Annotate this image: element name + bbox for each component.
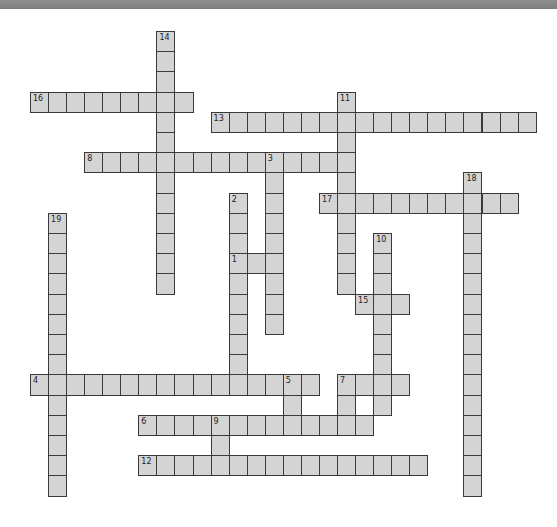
crossword-cell[interactable] (229, 354, 248, 375)
crossword-cell[interactable] (337, 415, 356, 436)
crossword-cell[interactable]: 9 (211, 415, 230, 436)
crossword-cell[interactable] (391, 294, 410, 315)
crossword-cell[interactable]: 2 (229, 193, 248, 214)
crossword-cell[interactable] (373, 395, 392, 416)
crossword-cell[interactable] (193, 152, 212, 173)
crossword-cell[interactable] (463, 233, 482, 254)
crossword-cell[interactable] (174, 455, 193, 476)
crossword-cell[interactable] (156, 213, 175, 234)
crossword-cell[interactable] (48, 455, 67, 476)
crossword-cell[interactable] (463, 475, 482, 496)
crossword-cell[interactable] (229, 152, 248, 173)
crossword-cell[interactable] (463, 395, 482, 416)
crossword-cell[interactable]: 12 (138, 455, 157, 476)
crossword-cell[interactable] (138, 92, 157, 113)
crossword-cell[interactable] (337, 112, 356, 133)
crossword-cell[interactable] (355, 415, 374, 436)
crossword-cell[interactable] (102, 92, 121, 113)
crossword-cell[interactable] (319, 112, 338, 133)
crossword-cell[interactable] (427, 112, 446, 133)
crossword-cell[interactable] (337, 172, 356, 193)
crossword-cell[interactable] (373, 273, 392, 294)
crossword-cell[interactable] (301, 415, 320, 436)
crossword-cell[interactable]: 19 (48, 213, 67, 234)
crossword-cell[interactable] (193, 374, 212, 395)
crossword-cell[interactable] (301, 152, 320, 173)
crossword-cell[interactable] (156, 193, 175, 214)
crossword-cell[interactable] (445, 112, 464, 133)
crossword-cell[interactable] (283, 395, 302, 416)
crossword-cell[interactable] (337, 273, 356, 294)
crossword-cell[interactable] (174, 92, 193, 113)
crossword-cell[interactable] (156, 233, 175, 254)
crossword-cell[interactable] (463, 435, 482, 456)
crossword-cell[interactable] (283, 415, 302, 436)
crossword-cell[interactable] (138, 374, 157, 395)
crossword-cell[interactable] (48, 415, 67, 436)
crossword-cell[interactable] (518, 112, 537, 133)
crossword-cell[interactable] (463, 415, 482, 436)
crossword-cell[interactable] (48, 435, 67, 456)
crossword-cell[interactable]: 17 (319, 193, 338, 214)
crossword-cell[interactable] (156, 273, 175, 294)
crossword-cell[interactable]: 4 (30, 374, 49, 395)
crossword-cell[interactable] (48, 475, 67, 496)
crossword-cell[interactable] (265, 193, 284, 214)
crossword-cell[interactable] (283, 455, 302, 476)
crossword-cell[interactable] (265, 233, 284, 254)
crossword-cell[interactable] (193, 455, 212, 476)
crossword-cell[interactable] (301, 455, 320, 476)
crossword-cell[interactable] (373, 354, 392, 375)
crossword-cell[interactable] (337, 193, 356, 214)
crossword-cell[interactable]: 16 (30, 92, 49, 113)
crossword-cell[interactable] (373, 193, 392, 214)
crossword-cell[interactable] (174, 152, 193, 173)
crossword-cell[interactable] (138, 152, 157, 173)
crossword-cell[interactable] (229, 374, 248, 395)
crossword-cell[interactable] (409, 112, 428, 133)
crossword-cell[interactable]: 11 (337, 92, 356, 113)
crossword-cell[interactable]: 18 (463, 172, 482, 193)
crossword-cell[interactable] (373, 455, 392, 476)
crossword-cell[interactable] (409, 455, 428, 476)
crossword-cell[interactable] (102, 374, 121, 395)
crossword-cell[interactable]: 15 (355, 294, 374, 315)
crossword-cell[interactable] (283, 112, 302, 133)
crossword-cell[interactable] (301, 374, 320, 395)
crossword-cell[interactable] (156, 152, 175, 173)
crossword-cell[interactable] (229, 334, 248, 355)
crossword-cell[interactable] (229, 112, 248, 133)
crossword-cell[interactable] (211, 374, 230, 395)
crossword-cell[interactable] (265, 213, 284, 234)
crossword-cell[interactable] (337, 253, 356, 274)
crossword-cell[interactable] (337, 213, 356, 234)
crossword-cell[interactable] (319, 415, 338, 436)
crossword-cell[interactable] (265, 172, 284, 193)
crossword-cell[interactable] (48, 354, 67, 375)
crossword-cell[interactable] (463, 455, 482, 476)
crossword-cell[interactable] (409, 193, 428, 214)
crossword-cell[interactable] (66, 92, 85, 113)
crossword-cell[interactable] (265, 314, 284, 335)
crossword-cell[interactable] (229, 455, 248, 476)
crossword-cell[interactable] (229, 273, 248, 294)
crossword-cell[interactable] (265, 455, 284, 476)
crossword-cell[interactable] (247, 455, 266, 476)
crossword-cell[interactable] (247, 374, 266, 395)
crossword-cell[interactable] (229, 415, 248, 436)
crossword-cell[interactable] (463, 354, 482, 375)
crossword-cell[interactable] (463, 213, 482, 234)
crossword-cell[interactable] (463, 314, 482, 335)
crossword-cell[interactable] (229, 213, 248, 234)
crossword-cell[interactable] (355, 374, 374, 395)
crossword-cell[interactable] (48, 233, 67, 254)
crossword-cell[interactable] (463, 112, 482, 133)
crossword-cell[interactable] (373, 314, 392, 335)
crossword-cell[interactable]: 7 (337, 374, 356, 395)
crossword-cell[interactable] (373, 334, 392, 355)
crossword-cell[interactable] (373, 112, 392, 133)
crossword-cell[interactable] (319, 455, 338, 476)
crossword-cell[interactable] (120, 374, 139, 395)
crossword-cell[interactable] (156, 92, 175, 113)
crossword-cell[interactable] (463, 193, 482, 214)
